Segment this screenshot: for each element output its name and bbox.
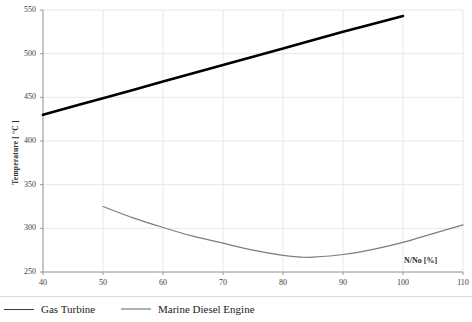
x-tick-label: 100 (390, 279, 416, 287)
legend-item-gas-turbine[interactable]: Gas Turbine (4, 302, 95, 316)
legend-item-marine-diesel-engine[interactable]: Marine Diesel Engine (121, 302, 255, 316)
x-tick-label: 40 (30, 279, 56, 287)
y-axis-title: Temperature [ °C ] (11, 105, 20, 201)
x-axis-annotation: N/No [%] (404, 256, 437, 265)
x-tick-label: 60 (150, 279, 176, 287)
chart-page: 250300350400450500550 405060708090100110… (0, 0, 472, 322)
plot-area-svg (0, 0, 472, 295)
y-tick-label: 500 (10, 50, 36, 58)
legend-label-gas-turbine: Gas Turbine (41, 303, 95, 315)
x-tick-label: 90 (330, 279, 356, 287)
chart-legend: Gas Turbine Marine Diesel Engine (0, 296, 472, 322)
temperature-vs-speed-chart: 250300350400450500550 405060708090100110… (0, 0, 472, 295)
x-tick-label: 80 (270, 279, 296, 287)
y-tick-label: 550 (10, 6, 36, 14)
legend-swatch-marine-diesel-engine-icon (121, 308, 151, 310)
y-tick-label: 250 (10, 268, 36, 276)
y-tick-label: 300 (10, 224, 36, 232)
legend-label-marine-diesel-engine: Marine Diesel Engine (158, 303, 255, 315)
data-series-group (43, 16, 463, 257)
y-tick-label: 450 (10, 93, 36, 101)
x-tick-label: 110 (450, 279, 472, 287)
x-tick-label: 50 (90, 279, 116, 287)
legend-swatch-gas-turbine-icon (4, 309, 34, 310)
axis-lines (40, 10, 463, 275)
x-tick-label: 70 (210, 279, 236, 287)
gridlines (43, 10, 463, 272)
